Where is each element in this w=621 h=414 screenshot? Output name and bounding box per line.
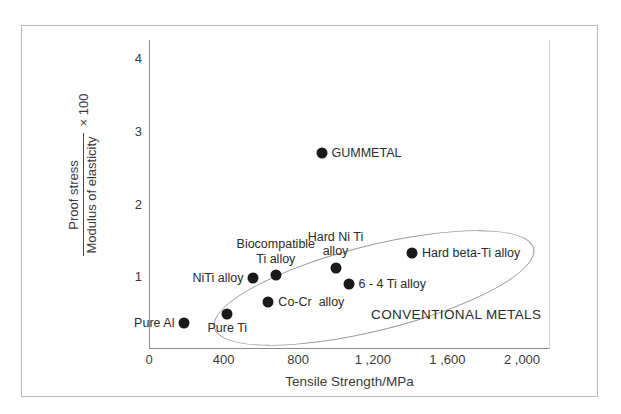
data-point (179, 317, 190, 328)
data-point (263, 297, 274, 308)
data-point (343, 278, 354, 289)
y-axis-ticks: 1234 (106, 40, 142, 349)
data-point-label: Pure Ti (208, 321, 248, 336)
data-point (316, 147, 327, 158)
x-tick-label: 0 (145, 352, 152, 368)
x-tick-label: 800 (287, 352, 309, 368)
data-point-label: Biocompatible Ti alloy (237, 236, 316, 266)
chart-figure: 1234 CONVENTIONAL METALS GUMMETALHard be… (0, 0, 621, 414)
data-point (330, 262, 341, 273)
y-axis-numerator: Proof stress (67, 157, 83, 232)
x-tick-label: 400 (213, 352, 235, 368)
y-axis-multiplier: × 100 (76, 94, 91, 127)
plot-area: CONVENTIONAL METALS GUMMETALHard beta-Ti… (149, 40, 550, 349)
y-axis-fraction: Proof stress Modulus of elasticity (67, 133, 100, 256)
y-tick-label: 1 (112, 270, 142, 283)
x-tick-label: 1 ,200 (355, 352, 391, 368)
data-point (248, 272, 259, 283)
data-point-label: Hard beta-Ti alloy (422, 246, 520, 261)
data-point-label: Pure Al (134, 315, 174, 330)
x-tick-label: 2 ,000 (504, 352, 540, 368)
y-axis-denominator: Modulus of elasticity (84, 133, 100, 256)
x-axis-ticks: 04008001 ,2001 ,6002 ,000 (149, 352, 550, 374)
y-axis-title: Proof stress Modulus of elasticity × 100 (60, 50, 106, 300)
data-point (222, 309, 233, 320)
y-tick-label: 2 (112, 197, 142, 210)
x-tick-label: 1 ,600 (429, 352, 465, 368)
y-tick-label: 4 (112, 52, 142, 65)
data-point (406, 248, 417, 259)
data-point-label: 6 - 4 Ti alloy (359, 276, 426, 291)
data-point (270, 269, 281, 280)
conventional-metals-label: CONVENTIONAL METALS (371, 307, 541, 322)
data-point-label: Hard Ni Ti alloy (308, 229, 364, 259)
data-point-label: Co-Cr alloy (278, 295, 344, 310)
data-point-label: GUMMETAL (332, 145, 402, 160)
data-point-label: NiTi alloy (193, 270, 244, 285)
x-axis-title: Tensile Strength/MPa (149, 374, 550, 389)
y-tick-label: 3 (112, 124, 142, 137)
